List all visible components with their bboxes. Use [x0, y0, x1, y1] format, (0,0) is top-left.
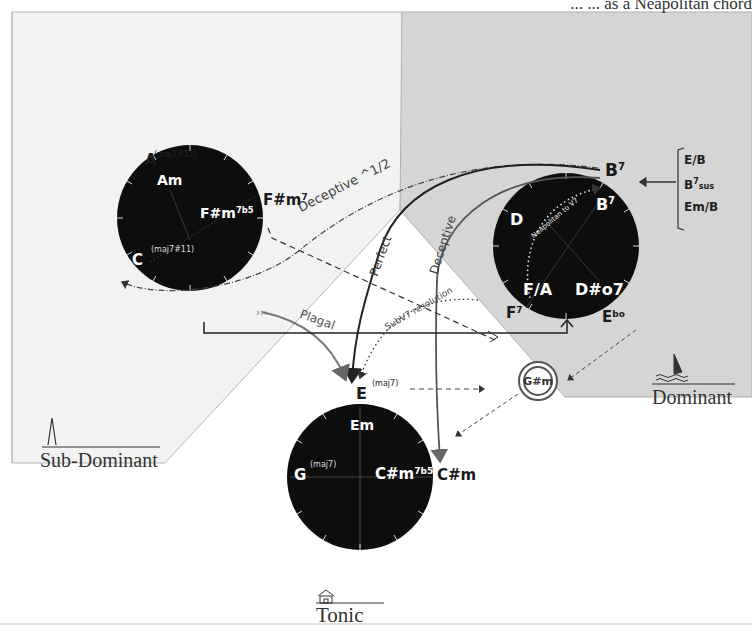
chord-csharp-m7b5: C#m7b5 [375, 467, 433, 482]
chord-fsharp-m7b5: F#m7b5 [200, 206, 254, 220]
chord-e-major: E [356, 386, 367, 402]
chord-b7-inner: B7 [596, 196, 615, 213]
chord-g-major: G [294, 468, 306, 483]
gsharp-to-csharp-dashed [456, 394, 518, 436]
chord-f7: F7 [506, 306, 523, 321]
chord-csharp-minor: C#m [437, 468, 476, 483]
chord-dsharp-dim7: D#o7 [575, 282, 624, 298]
svg-text:›››: ››› [256, 307, 268, 318]
chord-a-extension: (maj7#11) [154, 150, 197, 159]
chord-e-extension: (maj7) [372, 379, 398, 388]
chord-c-major: C [132, 253, 143, 268]
harmonic-function-diagram: ››› [0, 0, 752, 633]
chord-eb-dim: Ebo [602, 310, 625, 325]
chord-a-minor: Am [157, 173, 182, 187]
chord-f-over-a: F/A [523, 282, 552, 298]
alt-b7sus: B7sus [684, 171, 718, 197]
chord-b7-outer: B7 [605, 162, 625, 179]
chord-g-extension: (maj7) [310, 460, 336, 469]
diagram-canvas: ››› [0, 0, 752, 633]
gsharp-minor-node: G#m [518, 361, 558, 401]
gsharp-minor-label: G#m [523, 366, 553, 396]
chord-fsharp-m7: F#m7 [263, 193, 308, 208]
dominant-label: Dominant [652, 386, 732, 409]
chord-d-major: D [510, 212, 523, 228]
chord-e-minor: Em [350, 418, 374, 432]
house-icon [316, 590, 384, 603]
header-partial-text: ... ... as a Neapolitan chord [570, 0, 752, 14]
tonic-label: Tonic [316, 603, 364, 628]
subdominant-label: Sub-Dominant [40, 449, 158, 472]
b7-alternates-list: E/B B7sus Em/B [684, 150, 718, 218]
alt-e-over-b: E/B [684, 150, 718, 171]
alt-em-over-b: Em/B [684, 197, 718, 218]
chord-c-extension: (maj7#11) [151, 245, 194, 254]
